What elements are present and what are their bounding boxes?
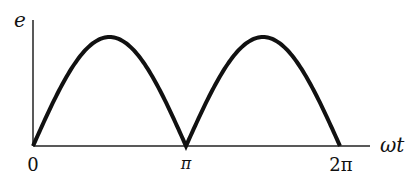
x-tick-2pi: 2π <box>329 154 352 175</box>
x-tick-0: 0 <box>27 154 38 175</box>
rectified-wave-diagram: e 0 π 2π ωt <box>0 0 420 181</box>
y-axis-label: e <box>14 8 26 32</box>
x-axis-label: ωt <box>380 133 405 157</box>
waveform-curve <box>33 37 340 146</box>
x-tick-pi: π <box>180 154 192 173</box>
